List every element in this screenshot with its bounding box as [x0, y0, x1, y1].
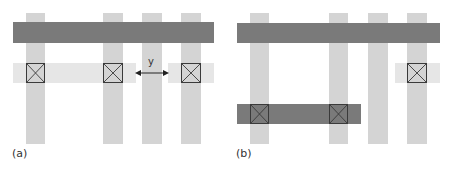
panel-b: (b)	[0, 0, 453, 169]
contact-x-icon	[250, 104, 269, 124]
panel-label-b: (b)	[236, 147, 252, 160]
dark-top-bar	[237, 23, 440, 43]
contact-x-icon	[329, 104, 348, 124]
contact-x-icon	[407, 63, 427, 83]
